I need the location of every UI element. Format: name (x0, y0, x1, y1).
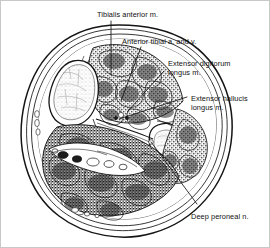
label-deep-peroneal-nerve-line1: Deep peroneal n. (191, 212, 249, 221)
label-extensor-digitorum-longus-line1: Extensor digitorum (168, 59, 231, 68)
label-extensor-hallucis-longus: Extensor hallucis longus m. (191, 94, 248, 112)
label-anterior-tibial-vessels: Anterior tibial a. and v. (122, 37, 196, 46)
label-extensor-hallucis-longus-line1: Extensor hallucis (191, 94, 248, 103)
label-anterior-tibial-vessels-line1: Anterior tibial a. and v. (122, 37, 196, 46)
label-tibialis-anterior: Tibialis anterior m. (97, 10, 158, 19)
label-extensor-digitorum-longus-line2: longus m. (168, 68, 231, 77)
tibia (49, 56, 98, 126)
figure-panel: Tibialis anterior m. Anterior tibial a. … (0, 0, 270, 248)
label-extensor-hallucis-longus-line2: longus m. (191, 103, 248, 112)
label-extensor-digitorum-longus: Extensor digitorum longus m. (168, 59, 231, 77)
label-tibialis-anterior-line1: Tibialis anterior m. (97, 10, 158, 19)
label-deep-peroneal-nerve: Deep peroneal n. (191, 212, 249, 221)
